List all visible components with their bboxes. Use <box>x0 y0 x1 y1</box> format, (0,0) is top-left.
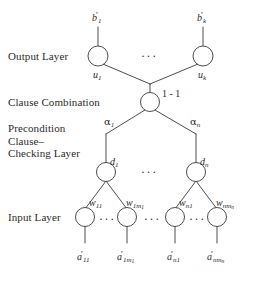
label-w-nmn: wnmn <box>216 197 234 210</box>
clause-combination-node <box>141 93 160 112</box>
edge-output-node-1-to-combination <box>103 64 150 84</box>
output-layer-ellipsis: ··· <box>141 50 158 62</box>
input-group-n-ellipsis: ··· <box>189 213 206 225</box>
layer-label-output: Output Layer <box>8 50 68 63</box>
layer-label-precondition: Precondition Clause– Checking Layer <box>8 122 80 160</box>
edge-dn-to-input-nm <box>196 181 217 209</box>
label-alpha-n: αn <box>190 116 200 129</box>
label-w-11: w11 <box>89 197 102 210</box>
label-w-n1: wn1 <box>179 197 193 210</box>
label-a-prime-11: a′11 <box>77 249 89 264</box>
output-node-1 <box>88 46 108 66</box>
input-node-11 <box>76 208 95 227</box>
label-b-prime-k: b′k <box>197 10 206 25</box>
label-w-1m1: w1m1 <box>126 197 144 210</box>
label-one-one: 1 - 1 <box>162 88 180 99</box>
label-u-1: u1 <box>93 69 102 82</box>
label-d-1: d1 <box>110 156 119 169</box>
precondition-layer-ellipsis: ··· <box>141 166 158 178</box>
label-a-prime-n1: a′n1 <box>167 249 180 264</box>
label-a-prime-1m1: a′1m1 <box>117 249 134 264</box>
output-node-k <box>193 46 213 66</box>
layer-label-clause-combination: Clause Combination <box>8 96 100 109</box>
input-layer-middle-ellipsis: ··· <box>144 213 161 225</box>
label-alpha-1: α1 <box>104 116 114 129</box>
label-u-k: uk <box>198 69 206 82</box>
input-group-1-ellipsis: ··· <box>99 213 116 225</box>
input-node-n1 <box>166 208 185 227</box>
input-node-1m <box>118 208 137 227</box>
input-node-nm <box>208 208 227 227</box>
label-a-prime-nmn: a′nmn <box>207 249 224 264</box>
label-d-n: dn <box>200 156 209 169</box>
edge-output-node-k-to-combination <box>150 64 198 84</box>
layer-label-input: Input Layer <box>8 211 61 224</box>
edge-d1-to-input-1m <box>106 181 127 209</box>
label-b-prime-1: b′1 <box>92 10 101 25</box>
network-diagram: Output Layer Clause Combination Precondi… <box>0 0 253 282</box>
